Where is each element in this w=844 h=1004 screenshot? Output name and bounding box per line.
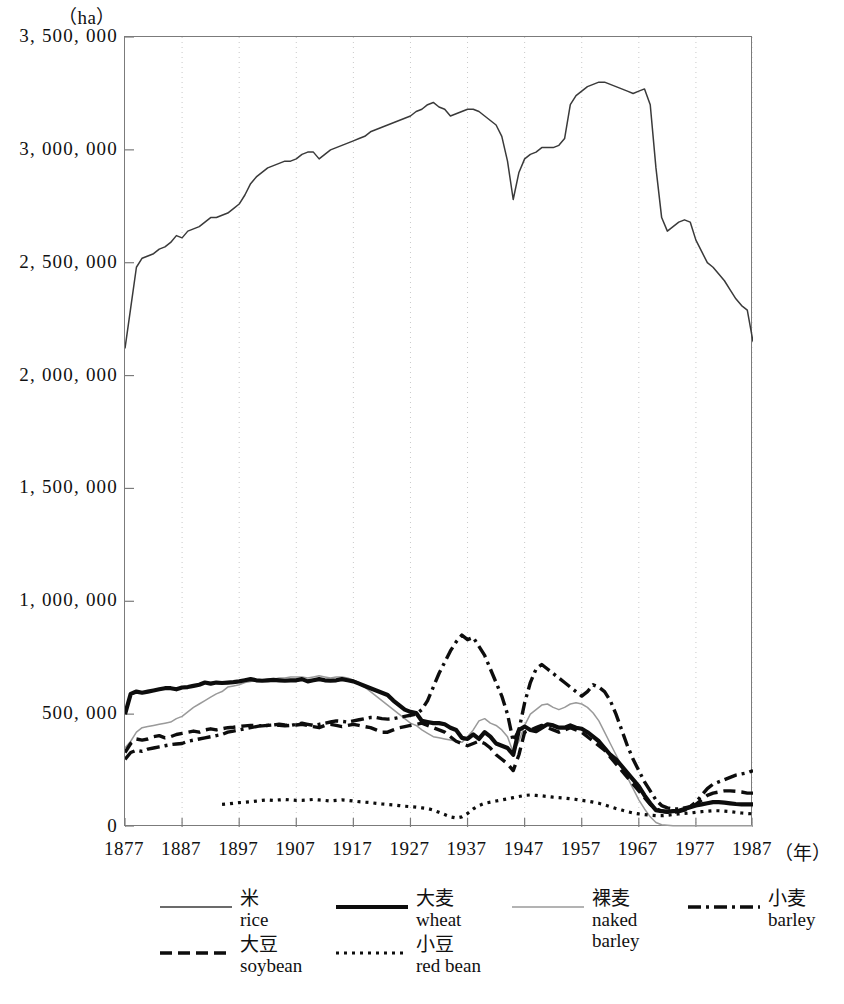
- x-axis-tick-label: 1967: [618, 838, 658, 860]
- legend-label: 米rice: [240, 888, 268, 930]
- x-axis-tick-label: 1977: [675, 838, 715, 860]
- x-axis-tick-label: 1937: [447, 838, 487, 860]
- legend-swatch-thick-solid: [336, 900, 408, 914]
- series-line-wheat: [125, 679, 753, 811]
- legend-label-en: soybean: [240, 955, 302, 976]
- series-group: [125, 82, 753, 826]
- series-line-red-bean: [222, 795, 753, 818]
- x-axis-ticks: [125, 818, 753, 827]
- legend-swatch-dashed: [160, 946, 232, 960]
- y-axis-tick-label: 0: [6, 815, 118, 837]
- legend-label-jp: 裸麦: [592, 888, 639, 909]
- x-axis-tick-label: 1927: [389, 838, 429, 860]
- x-axis-tick-label: 1877: [104, 838, 144, 860]
- y-axis-tick-label: 3, 500, 000: [6, 25, 118, 47]
- legend-label-jp: 大麦: [416, 888, 461, 909]
- chart-canvas: [125, 37, 753, 827]
- legend-label-jp: 小豆: [416, 934, 481, 955]
- gridlines: [182, 37, 753, 827]
- series-line-rice: [125, 82, 753, 348]
- y-axis-tick-label: 2, 500, 000: [6, 251, 118, 273]
- legend-label: 小豆red bean: [416, 934, 481, 976]
- y-axis-tick-label: 2, 000, 000: [6, 364, 118, 386]
- x-axis-tick-label: 1917: [332, 838, 372, 860]
- legend-label-en: rice: [240, 909, 268, 930]
- x-axis-tick-label: 1887: [161, 838, 201, 860]
- y-axis-tick-labels: 3, 500, 0003, 000, 0002, 500, 0002, 000,…: [0, 0, 118, 1004]
- legend-label: 裸麦nakedbarley: [592, 888, 639, 951]
- x-axis-tick-label: 1897: [218, 838, 258, 860]
- legend-label-en: naked: [592, 909, 639, 930]
- legend-label: 大豆soybean: [240, 934, 302, 976]
- y-axis-tick-label: 500, 000: [6, 702, 118, 724]
- legend-label: 小麦barley: [768, 888, 815, 930]
- y-axis-tick-label: 1, 000, 000: [6, 589, 118, 611]
- legend-label-jp: 小麦: [768, 888, 815, 909]
- chart-page: （ha） 3, 500, 0003, 000, 0002, 500, 0002,…: [0, 0, 844, 1004]
- legend-label-jp: 米: [240, 888, 268, 909]
- legend-label-jp: 大豆: [240, 934, 302, 955]
- legend-label-en: red bean: [416, 955, 481, 976]
- x-axis-tick-label: 1947: [504, 838, 544, 860]
- legend-label-en: barley: [768, 909, 815, 930]
- x-axis-tick-label: 1907: [275, 838, 315, 860]
- x-axis-tick-label: 1957: [561, 838, 601, 860]
- legend-label-en: wheat: [416, 909, 461, 930]
- legend-swatch-thin-gray-solid: [512, 900, 584, 914]
- x-axis-tick-label: 1987: [732, 838, 772, 860]
- legend-label: 大麦wheat: [416, 888, 461, 930]
- legend-swatch-thin-solid: [160, 900, 232, 914]
- series-line-soybean: [125, 723, 753, 812]
- legend-label-en: barley: [592, 930, 639, 951]
- legend-swatch-dotted: [336, 946, 408, 960]
- x-axis-unit-label: （年）: [774, 838, 831, 865]
- plot-area: [124, 36, 752, 826]
- y-axis-tick-label: 1, 500, 000: [6, 476, 118, 498]
- legend-swatch-dash-dot: [688, 900, 760, 914]
- chart-legend: 米rice大麦wheat裸麦nakedbarley小麦barley大豆soybe…: [160, 890, 800, 990]
- y-axis-tick-label: 3, 000, 000: [6, 138, 118, 160]
